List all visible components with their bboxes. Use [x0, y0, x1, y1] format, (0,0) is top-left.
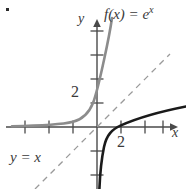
x-axis-label: x	[172, 126, 178, 140]
y-axis-label: y	[78, 12, 84, 26]
function-label-text: f(x) = e	[104, 6, 149, 22]
y-axis-tick-label-2: 2	[71, 84, 79, 100]
y-axis-arrow-icon	[93, 19, 101, 27]
identity-line-label: y = x	[10, 150, 41, 165]
identity-line-y-equals-x	[35, 54, 170, 189]
logarithm-curve	[99, 107, 186, 190]
function-label-exponent: x	[149, 4, 154, 15]
function-label-fx: f(x) = ex	[104, 5, 154, 22]
exponential-logarithm-graph-figure: f(x) = ex y x 2 2 y = x	[0, 0, 186, 189]
x-axis-tick-label-2: 2	[117, 134, 125, 150]
